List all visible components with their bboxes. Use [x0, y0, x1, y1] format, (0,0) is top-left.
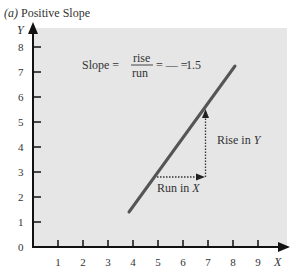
svg-text:6: 6 [18, 91, 24, 103]
svg-text:8: 8 [230, 256, 236, 268]
svg-text:5: 5 [18, 116, 24, 128]
svg-text:rise: rise [133, 51, 150, 65]
svg-text:3: 3 [18, 166, 24, 178]
svg-text:6: 6 [180, 256, 186, 268]
svg-text:run: run [132, 66, 148, 80]
svg-text:7: 7 [18, 66, 24, 78]
svg-text:5: 5 [155, 256, 161, 268]
svg-text:2: 2 [80, 256, 86, 268]
positive-slope-chart: (a) Positive Slope Y X 0 1 2 3 4 5 6 7 8 [0, 0, 301, 278]
rise-label: Rise in Y [217, 133, 262, 147]
svg-text:4: 4 [130, 256, 136, 268]
svg-text:1.5: 1.5 [186, 58, 201, 72]
svg-text:2: 2 [18, 191, 24, 203]
x-tick-labels: 1 2 3 4 5 6 7 8 9 [55, 256, 261, 268]
chart-title: (a) Positive Slope [4, 6, 90, 20]
svg-text:4: 4 [18, 141, 24, 153]
svg-text:= — =: = — = [156, 58, 188, 72]
svg-text:1: 1 [18, 216, 24, 228]
run-label: Run in X [157, 181, 200, 195]
x-axis-label: X [273, 255, 282, 269]
svg-text:8: 8 [18, 41, 24, 53]
svg-text:0: 0 [18, 241, 24, 253]
y-tick-labels: 0 1 2 3 4 5 6 7 8 [18, 41, 24, 253]
svg-text:7: 7 [205, 256, 211, 268]
svg-text:1: 1 [55, 256, 61, 268]
y-axis-label: Y [17, 23, 25, 37]
svg-text:Slope =: Slope = [82, 58, 119, 72]
svg-text:3: 3 [105, 256, 111, 268]
svg-text:9: 9 [255, 256, 261, 268]
